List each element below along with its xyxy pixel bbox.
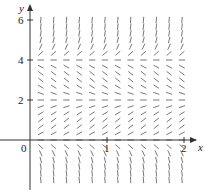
- slope-segment: [167, 51, 172, 55]
- slope-segment: [169, 164, 170, 170]
- slope-segment: [118, 17, 119, 23]
- slope-segment: [117, 24, 118, 30]
- slope-segment: [141, 145, 146, 149]
- slope-segment: [52, 44, 55, 50]
- slope-segment: [77, 118, 82, 122]
- slope-segment: [64, 132, 70, 135]
- slope-segment: [64, 112, 69, 115]
- y-ticks: 246: [18, 14, 33, 106]
- slope-segment: [91, 150, 94, 156]
- slope-segment: [130, 177, 131, 183]
- slope-segment: [167, 118, 172, 122]
- slope-segment: [66, 30, 67, 36]
- slope-segment: [66, 157, 68, 163]
- slope-segment: [156, 177, 157, 183]
- slope-segment: [117, 170, 118, 176]
- slope-segment: [166, 112, 171, 115]
- slope-segment: [89, 65, 95, 68]
- x-tick-label: 0: [21, 142, 27, 154]
- slope-segment: [51, 71, 56, 75]
- slope-segment: [153, 132, 159, 135]
- slope-segment: [66, 24, 67, 30]
- slope-segment: [63, 106, 69, 108]
- slope-segment: [38, 65, 44, 68]
- slope-segment: [115, 92, 121, 94]
- slope-segment: [142, 44, 145, 50]
- slope-segment: [89, 106, 95, 108]
- slope-segment: [128, 51, 133, 55]
- slope-segment: [143, 177, 144, 183]
- x-tick-label: 1: [104, 142, 110, 154]
- slope-segment: [104, 30, 105, 36]
- slope-segment: [104, 37, 106, 43]
- slope-segment: [154, 125, 159, 129]
- slope-segment: [105, 24, 106, 30]
- slope-segment: [154, 85, 159, 88]
- slope-segment: [180, 51, 185, 55]
- slope-segment: [154, 112, 159, 115]
- slope-segment: [156, 157, 158, 163]
- slope-segment: [143, 157, 145, 163]
- slope-segment: [92, 24, 93, 30]
- slope-segments: [38, 17, 186, 183]
- slope-segment: [117, 157, 119, 163]
- slope-segment: [143, 37, 145, 43]
- y-axis-arrow-icon: [27, 4, 33, 11]
- slope-segment: [51, 51, 56, 55]
- slope-segment: [38, 85, 43, 88]
- slope-segment: [66, 164, 67, 170]
- slope-segment: [63, 92, 69, 94]
- slope-segment: [92, 164, 93, 170]
- y-tick-label: 2: [18, 94, 24, 106]
- slope-segment: [64, 125, 69, 129]
- slope-segment: [130, 170, 131, 176]
- slope-segment: [66, 170, 67, 176]
- slope-segment: [79, 164, 80, 170]
- slope-segment: [92, 177, 93, 183]
- slope-segment: [79, 177, 80, 183]
- slope-segment: [77, 51, 82, 55]
- slope-segment: [181, 164, 182, 170]
- slope-segment: [79, 30, 80, 36]
- slope-segment: [90, 118, 95, 122]
- slope-segment: [128, 78, 133, 82]
- slope-segment: [115, 51, 120, 55]
- slope-segment: [38, 106, 44, 108]
- slope-segment: [53, 24, 54, 30]
- slope-segment: [166, 132, 172, 135]
- slope-segment: [53, 37, 55, 43]
- slope-segment: [90, 51, 95, 55]
- slope-segment: [130, 164, 131, 170]
- slope-segment: [64, 78, 69, 82]
- slope-segment: [92, 30, 93, 36]
- slope-segment: [39, 150, 42, 156]
- slope-segment: [128, 145, 133, 149]
- slope-segment: [90, 145, 95, 149]
- slope-segment: [64, 118, 69, 122]
- slope-segment: [117, 164, 118, 170]
- slope-segment: [130, 17, 131, 23]
- slope-segment: [140, 106, 146, 108]
- slope-segment: [141, 71, 146, 75]
- slope-segment: [168, 44, 171, 50]
- slope-segment: [179, 118, 184, 122]
- slope-segment: [115, 125, 120, 129]
- slope-segment: [179, 78, 184, 82]
- slope-segment: [153, 106, 159, 108]
- slope-segment: [76, 65, 82, 68]
- slope-segment: [38, 51, 43, 55]
- slope-segment: [117, 30, 118, 36]
- slope-segment: [168, 150, 171, 156]
- slope-segment: [167, 145, 172, 149]
- slope-segment: [181, 37, 183, 43]
- slope-segment: [129, 150, 132, 156]
- slope-segment: [77, 145, 82, 149]
- slope-segment: [115, 112, 120, 115]
- slope-segment: [140, 92, 146, 94]
- slope-segment: [77, 125, 82, 129]
- slope-segment: [52, 150, 55, 156]
- slope-segment: [38, 92, 44, 94]
- slope-segment: [143, 17, 144, 23]
- slope-segment: [156, 37, 158, 43]
- slope-segment: [89, 112, 94, 115]
